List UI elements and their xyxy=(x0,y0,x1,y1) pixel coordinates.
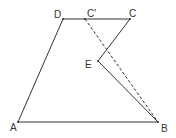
label-cprime: C' xyxy=(87,8,96,19)
point-e xyxy=(97,60,99,62)
point-cprime xyxy=(84,18,86,20)
segment-ce xyxy=(98,19,130,61)
point-a xyxy=(17,121,19,123)
segment-eb xyxy=(98,61,158,122)
point-b xyxy=(157,121,159,123)
segment-cprime-b-dashed xyxy=(85,19,158,122)
label-b: B xyxy=(161,123,168,134)
geometry-diagram: A B C D E C' xyxy=(0,0,176,138)
point-d xyxy=(62,18,64,20)
label-a: A xyxy=(10,122,17,133)
label-c: C xyxy=(129,8,136,19)
label-d: D xyxy=(54,9,61,20)
segment-ad xyxy=(18,19,63,122)
label-e: E xyxy=(85,59,92,70)
